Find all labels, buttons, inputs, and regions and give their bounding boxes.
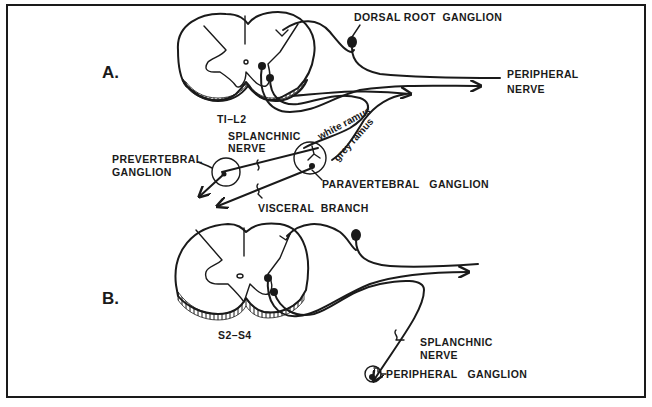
prevertebral-label-1: PREVERTEBRAL [112,153,203,165]
autonomic-outflow-diagram: A. TI–L2 DORSAL ROOT GANGLION PERIPHERAL… [0,0,652,407]
pelvic-splanchnic-fibre-b [274,281,424,380]
central-canal-b [237,274,243,278]
splanchnic-label-b-2: NERVE [420,349,458,361]
spinal-cord-a [178,12,315,101]
dorsal-root-a [283,21,354,52]
cord-level-a: TI–L2 [217,113,246,125]
peripheral-ganglion-label: PERIPHERAL GANGLION [386,368,527,380]
dorsal-root-ganglion-label: DORSAL ROOT GANGLION [354,11,502,23]
peripheral-ganglion-synapse [374,368,378,372]
peripheral-nerve-b [356,240,478,267]
visceral-branch-label: VISCERAL BRANCH [258,202,369,214]
paravertebral-ganglion-label: PARAVERTEBRAL GANGLION [322,178,489,190]
panel-b: B. S2–S4 SPLANCHNIC NERVE PERIPHERAL [102,223,527,382]
panel-a-label: A. [102,63,119,82]
panel-b-label: B. [102,289,119,308]
prevertebral-label-2: GANGLION [112,166,172,178]
peripheral-nerve-label-2: NERVE [507,83,545,95]
splanchnic-nerve-marker [257,160,259,170]
cord-level-b: S2–S4 [218,329,252,341]
dorsal-root-b [287,224,356,250]
drg-leader-a [352,25,360,37]
splanchnic-label-a-1: SPLANCHNIC [228,130,301,142]
white-matter-hatch-b [178,292,304,320]
visceral-branch-a [218,168,312,206]
peripheral-nerve-label-1: PERIPHERAL [507,68,579,80]
dorsal-root-ganglion-a [347,36,357,48]
splanchnic-label-b-1: SPLANCHNIC [420,336,493,348]
panel-a: A. TI–L2 DORSAL ROOT GANGLION PERIPHERAL… [102,11,579,214]
peripheral-nerve-a [352,48,500,78]
ventral-root-fibre-1-b [268,272,468,316]
paravertebral-leader [312,170,322,180]
splanchnic-label-a-2: NERVE [228,142,266,154]
peripheral-ganglion-neuron [369,374,375,380]
spinal-cord-b [175,223,308,320]
dorsal-horn-synapse-a [276,30,288,36]
central-canal-a [244,60,248,64]
